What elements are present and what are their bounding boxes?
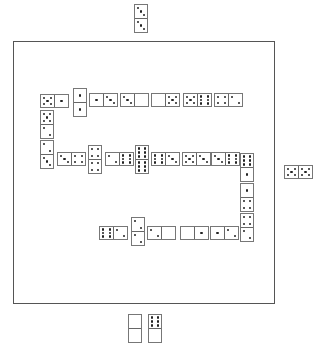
pip-dot-icon [140,241,142,243]
domino-half [41,95,55,107]
pip-dot-icon [108,155,110,157]
domino-half [106,153,120,165]
domino-tile [180,226,209,240]
pip-dot-icon [189,99,191,101]
pip-dot-icon [175,102,177,104]
domino-tile[interactable] [148,314,162,343]
pip-dot-icon [102,232,104,234]
pip-dot-icon [91,162,93,164]
pip-dot-icon [228,161,230,163]
pip-dot-icon [43,103,45,105]
pip-dot-icon [46,116,48,118]
pip-dot-icon [49,120,51,122]
pip-dot-icon [238,102,240,104]
pip-dot-icon [140,24,142,26]
pip-dot-icon [304,171,306,173]
pip-dot-icon [224,102,226,104]
pip-dot-icon [294,174,296,176]
pip-dot-icon [228,158,230,160]
pip-dot-icon [46,160,48,162]
pip-dot-icon [91,169,93,171]
domino-half [215,94,229,106]
pip-dot-icon [154,161,156,163]
pip-dot-icon [46,100,48,102]
domino-half [195,227,208,239]
domino-tile [120,93,149,107]
pip-dot-icon [246,189,248,191]
pip-dot-icon [249,223,251,225]
domino-half [121,94,135,106]
pip-dot-icon [290,171,292,173]
pip-dot-icon [249,155,251,157]
pip-dot-icon [50,97,52,99]
pip-dot-icon [216,232,218,234]
pip-dot-icon [207,95,209,97]
pip-dot-icon [217,96,219,98]
domino-half [225,227,238,239]
domino-half [197,153,210,165]
domino-tile [40,110,54,139]
pip-dot-icon [143,14,145,16]
pip-dot-icon [138,161,140,163]
domino-tile [40,94,69,108]
domino-half [104,94,117,106]
pip-dot-icon [200,95,202,97]
pip-dot-icon [123,96,125,98]
pip-dot-icon [249,216,251,218]
domino-half [136,146,148,160]
pip-dot-icon [122,158,124,160]
domino-tile [89,93,118,107]
domino-half [183,153,197,165]
domino-tile [135,145,149,174]
pip-dot-icon [200,102,202,104]
domino-half [241,184,253,198]
pip-dot-icon [200,232,202,234]
pip-dot-icon [102,228,104,230]
pip-dot-icon [113,102,115,104]
pip-dot-icon [193,96,195,98]
domino-tile[interactable] [284,165,313,179]
pip-dot-icon [186,102,188,104]
pip-dot-icon [161,158,163,160]
domino-tile [88,145,102,174]
pip-dot-icon [157,324,159,326]
pip-dot-icon [140,10,142,12]
pip-dot-icon [137,7,139,9]
domino-half [241,168,253,181]
pip-dot-icon [74,155,76,157]
pip-dot-icon [308,174,310,176]
pip-dot-icon [175,161,177,163]
pip-dot-icon [217,102,219,104]
pip-dot-icon [79,94,81,96]
domino-half [299,166,312,178]
domino-half [135,19,147,32]
domino-tile [105,152,134,166]
domino-half [152,94,166,106]
domino-tile[interactable] [134,4,148,33]
domino-tile [240,213,254,242]
pip-dot-icon [207,99,209,101]
domino-half [74,89,86,103]
pip-dot-icon [138,155,140,157]
domino-half [41,141,53,155]
pip-dot-icon [161,154,163,156]
pip-dot-icon [144,165,146,167]
pip-dot-icon [144,155,146,157]
pip-dot-icon [243,230,245,232]
domino-tile [73,88,87,117]
pip-dot-icon [97,148,99,150]
domino-half [181,227,195,239]
pip-dot-icon [144,161,146,163]
domino-tile [240,153,254,182]
pip-dot-icon [168,96,170,98]
pip-dot-icon [81,161,83,163]
domino-half [285,166,299,178]
pip-dot-icon [49,113,51,115]
domino-tile [210,226,239,240]
domino-half [58,153,72,165]
domino-tile[interactable] [128,314,142,343]
pip-dot-icon [137,21,139,23]
domino-half [136,160,148,173]
pip-dot-icon [154,158,156,160]
pip-dot-icon [246,173,248,175]
